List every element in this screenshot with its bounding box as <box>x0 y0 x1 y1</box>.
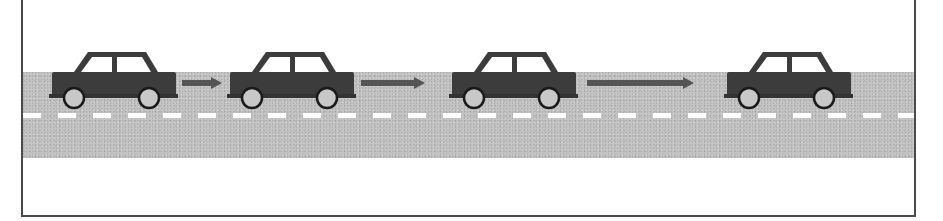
car-icon <box>723 50 853 110</box>
arrow-right-icon <box>182 77 222 89</box>
car-1 <box>48 50 178 110</box>
car-3 <box>448 50 578 110</box>
car-2 <box>226 50 356 110</box>
car-icon <box>448 50 578 110</box>
car-icon <box>48 50 178 110</box>
car-4 <box>723 50 853 110</box>
arrow-right-icon <box>587 77 694 89</box>
car-icon <box>226 50 356 110</box>
lane-divider-dashed-line <box>23 113 914 118</box>
arrow-3 <box>587 77 694 89</box>
arrow-2 <box>361 77 425 89</box>
arrow-1 <box>182 77 222 89</box>
arrow-right-icon <box>361 77 425 89</box>
